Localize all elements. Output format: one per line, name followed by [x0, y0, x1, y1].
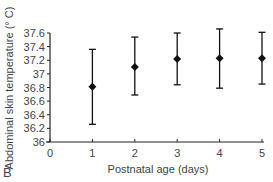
diamond-marker-icon	[216, 54, 224, 62]
data-point	[173, 33, 181, 85]
y-tick-label: 37.2	[24, 54, 45, 66]
chart: Abdominal skin temperature (° C) 3636.23…	[0, 0, 273, 182]
x-tick-label: 0	[47, 147, 53, 159]
y-tick-label: 37.4	[24, 41, 45, 53]
x-tick-label: 4	[217, 147, 223, 159]
y-tick-label: 36.4	[24, 109, 45, 121]
data-point	[216, 29, 224, 88]
y-tick-label: 37	[33, 68, 45, 80]
y-axis-title: Abdominal skin temperature (° C)	[3, 7, 15, 170]
y-tick-label: 37.6	[24, 27, 45, 39]
y-axis: 3636.236.436.636.83737.237.437.6	[24, 27, 50, 148]
data-series	[88, 29, 266, 124]
y-tick-label: 36.2	[24, 122, 45, 134]
y-tick-label: 36.8	[24, 82, 45, 94]
x-tick-label: 2	[132, 147, 138, 159]
x-tick-label: 3	[174, 147, 180, 159]
diamond-marker-icon	[88, 83, 96, 91]
diamond-marker-icon	[173, 55, 181, 63]
x-axis-title: Postnatal age (days)	[108, 163, 209, 175]
x-tick-label: 1	[89, 147, 95, 159]
y-tick-label: 36	[33, 136, 45, 148]
diamond-marker-icon	[258, 54, 266, 62]
y-tick-label: 36.6	[24, 95, 45, 107]
data-point	[131, 37, 139, 95]
y-axis-title-group: Abdominal skin temperature (° C)	[3, 7, 15, 170]
data-point	[258, 32, 266, 84]
diamond-marker-icon	[131, 63, 139, 71]
x-axis: 012345	[46, 139, 265, 159]
x-tick-label: 5	[259, 147, 265, 159]
data-point	[88, 49, 96, 124]
panel-label: B	[3, 165, 12, 180]
